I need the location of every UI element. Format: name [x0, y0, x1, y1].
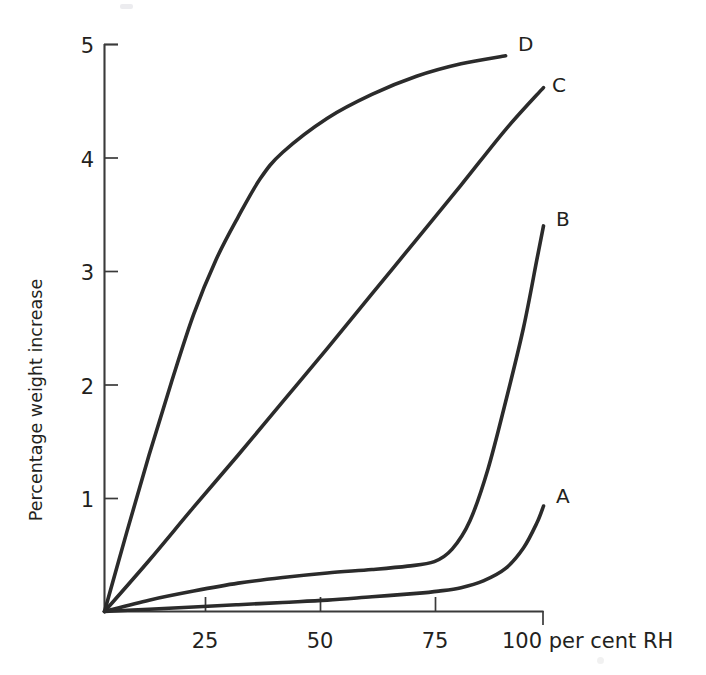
x-axis-title: 100 per cent RH — [502, 629, 673, 653]
series-label-C: C — [552, 73, 566, 97]
chart-figure: 5 4 3 2 1 25 50 75 100 per cent RH Perce… — [0, 0, 706, 675]
y-axis-ticks: 5 4 3 2 1 — [81, 34, 118, 512]
y-tick-label-4: 4 — [81, 148, 94, 172]
x-tick-label-75: 75 — [422, 629, 449, 653]
x-axis-ticks: 25 50 75 100 per cent RH — [192, 597, 674, 653]
series-labels: A B C D — [518, 32, 570, 508]
x-tick-label-50: 50 — [307, 629, 334, 653]
line-chart-canvas: 5 4 3 2 1 25 50 75 100 per cent RH Perce… — [0, 0, 706, 675]
series-label-A: A — [556, 484, 570, 508]
series-label-B: B — [556, 207, 570, 231]
series-label-D: D — [518, 32, 533, 56]
curve-series-C — [105, 88, 544, 612]
y-tick-label-2: 2 — [81, 375, 94, 399]
y-tick-label-1: 1 — [81, 488, 94, 512]
y-tick-label-3: 3 — [81, 261, 94, 285]
series-curves — [105, 56, 544, 612]
x-tick-label-25: 25 — [192, 629, 219, 653]
y-tick-label-5: 5 — [81, 34, 94, 58]
curve-series-D — [105, 56, 506, 612]
y-axis-title: Percentage weight increase — [26, 279, 46, 521]
curve-series-B — [105, 226, 544, 612]
